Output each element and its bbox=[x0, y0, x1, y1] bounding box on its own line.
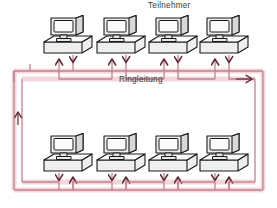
node-top-2[interactable] bbox=[97, 16, 145, 54]
node-top-4[interactable] bbox=[200, 16, 248, 54]
ring-line-label: Ringleitung bbox=[119, 75, 163, 84]
node-top-1[interactable] bbox=[44, 16, 92, 54]
diagram-canvas: Teilnehmer Ringleitung bbox=[0, 0, 277, 208]
ring-side-conductors bbox=[14, 71, 263, 190]
node-top-3[interactable] bbox=[149, 16, 197, 54]
bottom-row-nodes bbox=[44, 134, 248, 172]
node-bottom-2[interactable] bbox=[97, 134, 145, 172]
participants-label: Teilnehmer bbox=[148, 1, 191, 10]
node-bottom-4[interactable] bbox=[200, 134, 248, 172]
node-bottom-3[interactable] bbox=[149, 134, 197, 172]
ring-topology-svg bbox=[0, 0, 277, 208]
node-bottom-1[interactable] bbox=[44, 134, 92, 172]
top-node-down-legs bbox=[73, 55, 229, 62]
ring-glow bbox=[14, 71, 263, 190]
top-row-nodes bbox=[44, 16, 248, 54]
